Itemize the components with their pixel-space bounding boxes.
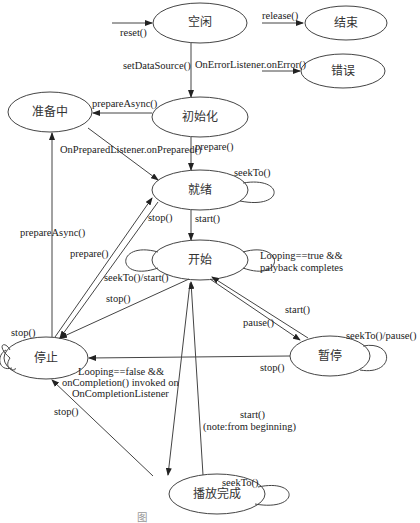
label-on-prepared: OnPreparedListener.onPrepared() — [60, 144, 201, 155]
state-error-label: 错误 — [313, 64, 373, 78]
label-looping-true-2: palyback completes — [260, 262, 343, 273]
label-seek-start-started: seekTo()/start() — [104, 272, 169, 283]
figure-caption: 图 — [137, 512, 147, 523]
label-stop-started: stop() — [106, 293, 131, 304]
label-release: release() — [262, 10, 298, 21]
label-stop-stopped: stop() — [11, 327, 36, 338]
state-idle-label: 空闲 — [170, 15, 230, 29]
state-preparing-label: 准备中 — [20, 105, 80, 119]
label-start-paused: start() — [285, 304, 310, 315]
label-stop-prepared: stop() — [148, 212, 173, 223]
label-looping-true-1: Looping==true && — [260, 250, 343, 261]
label-looping-false-2: onCompletion() invoked on — [62, 377, 179, 388]
state-completed-label: 播放完成 — [177, 487, 257, 501]
label-seek-completed: seekTo() — [222, 477, 259, 488]
label-looping-false-3: OnCompletionListener — [72, 388, 169, 399]
label-stop-paused: stop() — [260, 362, 285, 373]
state-initialized-label: 初始化 — [170, 110, 230, 124]
label-on-error: OnErrorListener.onError() — [195, 59, 306, 70]
state-stopped-label: 停止 — [16, 351, 76, 365]
label-seek-prepared: seekTo() — [234, 167, 271, 178]
label-seek-pause-paused: seekTo()/pause() — [346, 330, 416, 341]
label-stop-completed: stop() — [54, 406, 79, 417]
label-prepare-stopped: prepare() — [70, 248, 108, 259]
label-start-completed-2: (note:from beginning) — [203, 421, 296, 432]
label-start-prepared: start() — [195, 213, 220, 224]
state-started-label: 开始 — [170, 253, 230, 267]
state-paused-label: 暂停 — [300, 349, 360, 363]
label-prepare-init: prepare() — [195, 141, 233, 152]
state-prepared-label: 就绪 — [170, 183, 230, 197]
state-end-label: 结束 — [316, 16, 376, 30]
label-pause: pause() — [243, 317, 274, 328]
label-prepare-async-init: prepareAsync() — [92, 98, 157, 109]
label-looping-false-1: Looping==false && — [78, 366, 164, 377]
label-set-data-source: setDataSource() — [123, 60, 191, 71]
label-reset: reset() — [120, 27, 147, 38]
label-prepare-async-stopped: prepareAsync() — [20, 227, 85, 238]
label-start-completed-1: start() — [240, 409, 265, 420]
